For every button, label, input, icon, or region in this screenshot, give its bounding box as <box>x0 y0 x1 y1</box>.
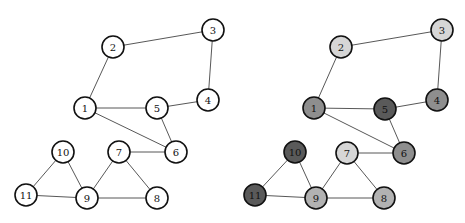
node-label: 6 <box>401 148 407 159</box>
node-label: 10 <box>57 147 70 158</box>
node-7: 7 <box>108 141 130 163</box>
right-graph: 1234567891011 <box>244 19 453 209</box>
edge-2-3 <box>113 30 213 47</box>
node-10: 10 <box>284 141 306 163</box>
node-9: 9 <box>76 187 98 209</box>
node-10: 10 <box>52 141 74 163</box>
node-6: 6 <box>393 142 415 164</box>
node-label: 6 <box>173 147 179 158</box>
node-label: 9 <box>84 193 90 204</box>
node-label: 11 <box>20 190 33 201</box>
graph-diagram: 12345678910111234567891011 <box>0 0 465 223</box>
node-label: 8 <box>381 193 387 204</box>
node-label: 1 <box>82 103 88 114</box>
edge-2-3 <box>341 30 442 47</box>
node-1: 1 <box>303 97 325 119</box>
left-graph: 1234567891011 <box>15 19 224 209</box>
node-label: 8 <box>154 193 160 204</box>
node-4: 4 <box>197 89 219 111</box>
node-11: 11 <box>15 184 37 206</box>
node-1: 1 <box>74 97 96 119</box>
node-label: 2 <box>110 42 116 53</box>
node-3: 3 <box>202 19 224 41</box>
node-label: 4 <box>205 95 211 106</box>
node-label: 11 <box>249 190 262 201</box>
node-3: 3 <box>431 19 453 41</box>
node-label: 5 <box>382 104 388 115</box>
node-label: 10 <box>289 147 302 158</box>
node-label: 1 <box>311 103 317 114</box>
node-9: 9 <box>305 187 327 209</box>
node-5: 5 <box>374 98 396 120</box>
node-label: 4 <box>434 95 440 106</box>
node-label: 9 <box>313 193 319 204</box>
node-8: 8 <box>373 187 395 209</box>
node-2: 2 <box>102 36 124 58</box>
node-6: 6 <box>165 141 187 163</box>
node-4: 4 <box>426 89 448 111</box>
node-label: 3 <box>439 25 445 36</box>
node-2: 2 <box>330 36 352 58</box>
node-label: 2 <box>338 42 344 53</box>
node-11: 11 <box>244 184 266 206</box>
node-5: 5 <box>146 97 168 119</box>
node-label: 3 <box>210 25 216 36</box>
node-label: 7 <box>116 147 122 158</box>
node-label: 5 <box>154 103 160 114</box>
node-label: 7 <box>344 148 350 159</box>
node-7: 7 <box>336 142 358 164</box>
node-8: 8 <box>146 187 168 209</box>
